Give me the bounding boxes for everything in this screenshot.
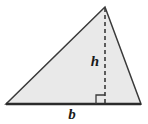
base-label: b xyxy=(68,106,76,122)
triangle-diagram-canvas: h b xyxy=(0,0,148,124)
geometry-figure: h b xyxy=(0,0,148,124)
height-label: h xyxy=(91,53,99,69)
